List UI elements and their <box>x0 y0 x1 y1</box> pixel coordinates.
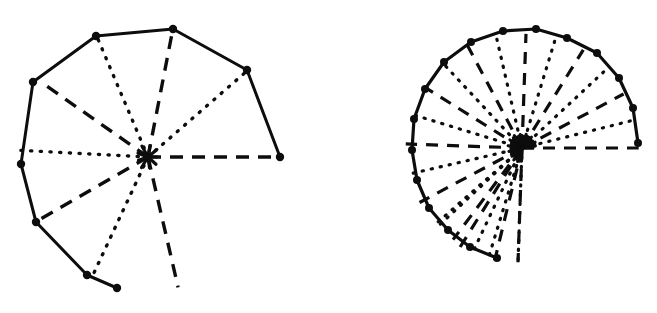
vertex-dot <box>440 58 448 66</box>
vertex-dot <box>408 146 416 154</box>
vertex-dot <box>113 284 121 292</box>
vertex-dot <box>615 74 623 82</box>
vertex-dot <box>563 34 571 42</box>
vertex-dot <box>467 38 475 46</box>
vertex-dot <box>169 25 177 33</box>
vertex-dot <box>425 204 433 212</box>
vertex-dot <box>421 85 429 93</box>
vertex-dot <box>413 176 421 184</box>
vertex-dot <box>92 32 100 40</box>
vertex-dot <box>17 160 25 168</box>
vertex-dot <box>493 254 501 262</box>
vertex-dot <box>444 226 452 234</box>
vertex-dot <box>410 115 418 123</box>
vertex-dot <box>629 104 637 112</box>
vertex-dot <box>32 218 40 226</box>
vertex-dot <box>499 27 507 35</box>
spiral-figure-canvas <box>0 0 657 313</box>
vertex-dot <box>532 25 540 33</box>
vertex-dot <box>276 153 284 161</box>
vertex-dot <box>243 66 251 74</box>
vertex-dot <box>466 243 474 251</box>
figure-background <box>0 0 657 313</box>
vertex-dot <box>29 78 37 86</box>
vertex-dot <box>634 139 642 147</box>
vertex-dot <box>83 271 91 279</box>
vertex-dot <box>593 49 601 57</box>
